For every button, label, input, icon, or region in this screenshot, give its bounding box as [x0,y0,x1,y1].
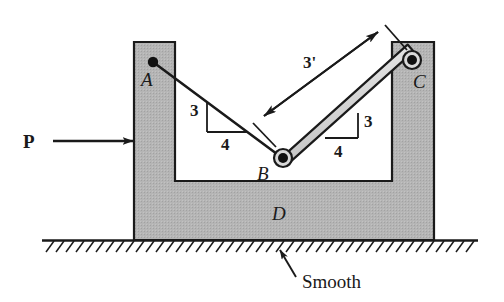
slope-right-run-label: 4 [334,142,343,161]
pin-a [148,57,158,67]
slope-left-run-label: 4 [221,135,230,154]
smooth-label: Smooth [302,271,362,292]
diagram-canvas: D [0,0,504,302]
slope-right-rise-label: 3 [364,112,373,131]
ground [42,241,478,253]
pin-b [278,153,288,163]
dimension-bc: 3' [253,25,407,147]
dimension-arrow-upper [264,32,378,116]
dimension-bc-label: 3' [303,53,316,72]
pin-c [407,55,417,65]
point-a-label: A [139,69,153,90]
force-p-label: P [23,131,35,152]
block-d-label: D [271,203,286,224]
point-c-label: C [413,71,426,92]
force-p: P [23,131,133,152]
slope-left-rise-label: 3 [190,101,199,120]
point-b-label: B [257,163,269,184]
ground-hatching [46,241,474,252]
smooth-leader-arrow [280,250,296,277]
smooth-callout: Smooth [280,250,362,292]
mechanics-figure: D [0,0,504,302]
